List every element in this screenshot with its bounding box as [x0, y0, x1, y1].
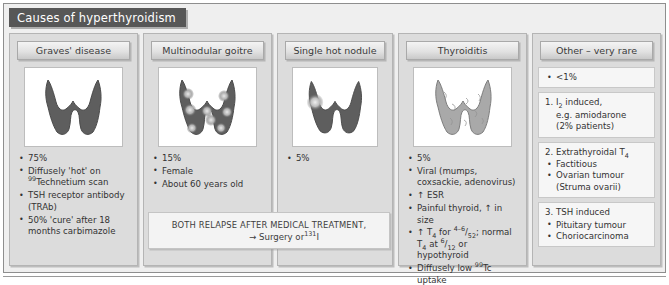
bullet-list-thyroiditis: 5% Viral (mumps, coxsackie, adenovirus) …: [404, 153, 521, 285]
scan-image-graves: [24, 67, 123, 147]
banner-line-2: → Surgery or131I: [219, 232, 319, 242]
section-title: 2. Extrathyroidal T4: [545, 147, 650, 158]
bullet-item: Factitious: [547, 159, 650, 170]
bullet-list-tsh-induced: Pituitary tumour Choriocarcinoma: [545, 220, 650, 243]
bullet-item: 50% 'cure' after 18 months carbimazole: [19, 215, 130, 238]
bullet-list-multinodular: 15% Female About 60 years old: [149, 153, 266, 190]
diffuse-hot-thyroid-scan-svg: [36, 74, 110, 140]
column-graves-disease: Graves' disease 75% Diffusely 'hot' on 9…: [9, 33, 138, 266]
bottom-rule: [3, 276, 666, 277]
bullet-item: Painful thyroid, ↑ in size: [408, 203, 519, 226]
iodine-element-symbol: I: [316, 232, 319, 242]
other-section-tsh-induced: 3. TSH induced Pituitary tumour Chorioca…: [538, 202, 655, 247]
column-header-label: Multinodular goitre: [162, 45, 252, 56]
single-hot-nodule-scan-svg: [300, 74, 370, 140]
bullet-item: 15%: [153, 153, 264, 164]
bullet-item: Diffusely 'hot' on 99Technetium scan: [19, 166, 130, 189]
column-thyroiditis: Thyroiditis: [398, 33, 527, 266]
page-title: Causes of hyperthyroidism: [9, 8, 186, 27]
bullet-item: 5%: [408, 153, 519, 164]
bullet-item: About 60 years old: [153, 179, 264, 190]
bullet-item: <1%: [547, 72, 650, 83]
bullet-item: Diffusely low 99Tc uptake: [408, 263, 519, 285]
bullet-item: TSH receptor antibody (TRAb): [19, 190, 130, 213]
column-header-other: Other – very rare: [540, 41, 653, 60]
column-header-label: Thyroiditis: [438, 45, 488, 56]
column-header-thyroiditis: Thyroiditis: [406, 41, 519, 60]
diagram-page: Causes of hyperthyroidism Graves' diseas…: [0, 0, 669, 285]
bullet-item: Choriocarcinoma: [547, 231, 650, 242]
banner-line-1: BOTH RELAPSE AFTER MEDICAL TREATMENT,: [172, 220, 366, 230]
column-header-label: Graves' disease: [36, 45, 111, 56]
other-section-prevalence: <1%: [538, 67, 655, 88]
column-header-single-nodule: Single hot nodule: [285, 41, 385, 60]
column-header-label: Single hot nodule: [293, 45, 376, 56]
bullet-item: 5%: [287, 153, 385, 164]
section-subline: e.g. amiodarone: [545, 110, 650, 121]
bullet-item: Female: [153, 166, 264, 177]
section-subline: (2% patients): [545, 121, 650, 132]
both-relapse-banner: BOTH RELAPSE AFTER MEDICAL TREATMENT, → …: [148, 212, 390, 249]
page-title-label: Causes of hyperthyroidism: [17, 11, 176, 25]
bullet-list-single-nodule: 5%: [283, 153, 387, 164]
column-header-multinodular: Multinodular goitre: [151, 41, 264, 60]
other-section-iodine-induced: 1. I2 induced, e.g. amiodarone (2% patie…: [538, 92, 655, 137]
other-section-extrathyroidal: 2. Extrathyroidal T4 Factitious Ovarian …: [538, 142, 655, 199]
bullet-list-extrathyroidal: Factitious Ovarian tumour: [545, 159, 650, 182]
bullet-item: Ovarian tumour: [547, 170, 650, 181]
bullet-item: 75%: [19, 153, 130, 164]
section-title: 1. I2 induced,: [545, 97, 650, 108]
column-header-graves: Graves' disease: [17, 41, 130, 60]
column-other-very-rare: Other – very rare <1% 1. I2 induced, e.g…: [532, 33, 661, 266]
multinodular-hot-spots-scan-svg: [170, 74, 244, 140]
bullet-list-graves: 75% Diffusely 'hot' on 99Technetium scan…: [15, 153, 132, 237]
low-uptake-thyroid-scan-svg: [426, 74, 500, 140]
scan-image-thyroiditis: [413, 67, 512, 147]
column-header-label: Other – very rare: [556, 45, 637, 56]
scan-image-single-nodule: [292, 67, 378, 147]
bullet-item: Pituitary tumour: [547, 220, 650, 231]
bullet-item: ↑ ESR: [408, 190, 519, 201]
banner-arrow-text: → Surgery or: [249, 232, 304, 242]
bullet-list-prevalence: <1%: [545, 72, 650, 83]
scan-image-multinodular: [158, 67, 257, 147]
bullet-item: Viral (mumps, coxsackie, adenovirus): [408, 166, 519, 189]
iodine-isotope-number: 131: [304, 230, 316, 238]
section-subline: (Struma ovarii): [545, 182, 650, 193]
section-title: 3. TSH induced: [545, 207, 650, 218]
bullet-item: ↑ T4 for 4–6/52; normal T4 at 6/12 or hy…: [408, 227, 519, 261]
